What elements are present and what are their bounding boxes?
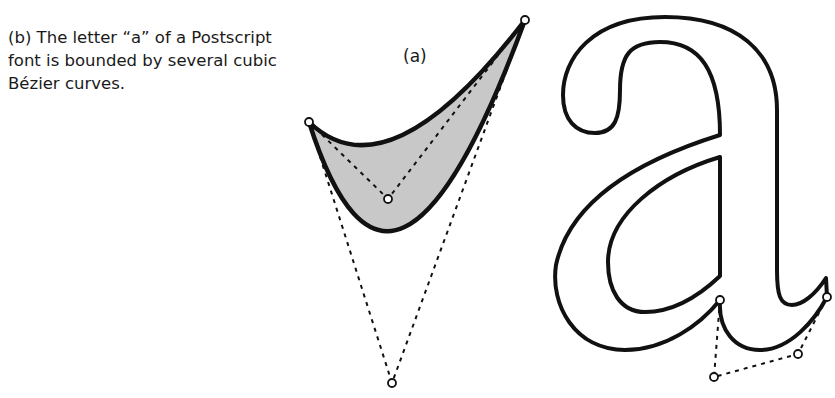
diagram-a (305, 16, 529, 387)
endpoint-marker (823, 293, 831, 301)
shaded-region (309, 20, 525, 231)
endpoint-marker (305, 118, 313, 126)
control-point-marker (388, 379, 396, 387)
endpoint-marker (521, 16, 529, 24)
bezier-diagrams (0, 0, 835, 398)
control-point-marker (794, 350, 802, 358)
control-point-marker (384, 195, 392, 203)
endpoint-marker (716, 296, 724, 304)
control-point-marker (710, 373, 718, 381)
diagram-letter-a (555, 17, 831, 381)
letter-a-inner-counter (608, 157, 720, 312)
